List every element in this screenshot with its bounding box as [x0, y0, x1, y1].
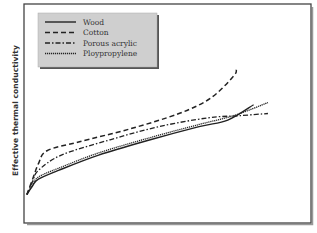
- series-line-porous-acrylic: [27, 114, 268, 195]
- legend-label: Porous acrylic: [83, 39, 137, 48]
- series-line-cotton: [27, 70, 237, 195]
- series-line-wood: [27, 105, 254, 195]
- legend-label: Ploypropylene: [83, 49, 138, 58]
- legend: WoodCottonPorous acrylicPloypropylene: [38, 13, 159, 69]
- chart: WoodCottonPorous acrylicPloypropylene: [0, 0, 317, 233]
- y-axis-label: Effective thermal conductivity: [11, 36, 20, 186]
- series-line-ploypropylene: [27, 103, 268, 195]
- series-lines: [27, 70, 268, 195]
- legend-label: Cotton: [83, 28, 109, 37]
- legend-label: Wood: [83, 18, 104, 27]
